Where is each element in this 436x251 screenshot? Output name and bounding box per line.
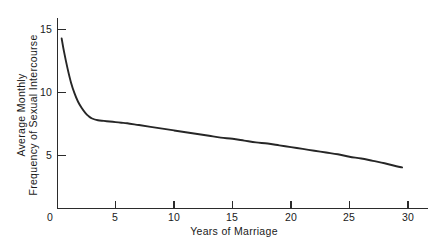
x-tick-label-30: 30 bbox=[402, 211, 414, 223]
y-axis-title-line2: Frequency of Sexual Intercourse bbox=[27, 34, 39, 195]
y-axis-title-line1: Average Monthly bbox=[15, 73, 27, 157]
chart-background bbox=[0, 0, 436, 251]
line-chart: 15 10 5 0 5 10 15 20 25 30 Years of Marr… bbox=[0, 0, 436, 251]
y-tick-label-5: 5 bbox=[46, 149, 52, 161]
y-tick-label-10: 10 bbox=[40, 86, 52, 98]
y-tick-label-15: 15 bbox=[40, 23, 52, 35]
chart-figure: 15 10 5 0 5 10 15 20 25 30 Years of Marr… bbox=[0, 0, 436, 251]
x-axis-title: Years of Marriage bbox=[190, 225, 278, 237]
x-tick-label-0: 0 bbox=[47, 211, 53, 223]
x-tick-label-10: 10 bbox=[168, 211, 180, 223]
x-tick-label-15: 15 bbox=[226, 211, 238, 223]
x-tick-label-25: 25 bbox=[343, 211, 355, 223]
x-tick-label-20: 20 bbox=[285, 211, 297, 223]
x-tick-label-5: 5 bbox=[112, 211, 118, 223]
